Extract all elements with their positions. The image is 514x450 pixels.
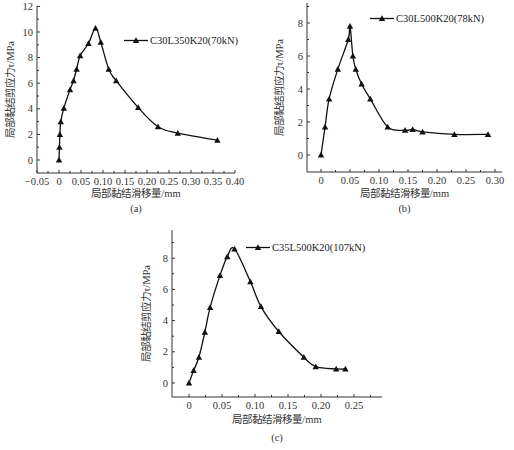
x-tick-label: 0.20 [312, 400, 330, 411]
data-point-marker [202, 329, 208, 335]
data-point-marker [335, 66, 341, 72]
x-tick-label: 0.30 [486, 175, 504, 186]
y-tick-label: 0 [28, 155, 33, 166]
y-tick-label: 8 [28, 52, 33, 63]
x-tick-label: 0.25 [345, 400, 363, 411]
x-tick-label: 0.25 [457, 175, 475, 186]
figure-caption: (b) [398, 203, 411, 215]
x-tick-label: 0.30 [182, 176, 200, 187]
x-tick-label: 0.20 [428, 175, 446, 186]
x-tick-label: 0.10 [94, 176, 112, 187]
chart-b: 0246800.050.100.150.200.250.30局部黏结滑移量/mm… [273, 3, 504, 215]
data-point-marker [57, 131, 63, 137]
data-point-marker [92, 25, 98, 31]
legend: C30L350K20(70kN) [124, 35, 239, 47]
y-tick-label: 10 [23, 27, 34, 38]
y-tick-label: 0 [298, 150, 303, 161]
legend-label: C30L500K20(78kN) [396, 13, 485, 25]
data-point-marker [258, 303, 264, 309]
x-tick-label: 0.15 [399, 175, 417, 186]
y-tick-label: 12 [23, 1, 34, 12]
x-tick-label: 0.40 [226, 176, 244, 187]
data-point-marker [217, 272, 223, 278]
y-tick-label: 2 [298, 117, 303, 128]
x-axis-label: 局部黏结滑移量/mm [232, 413, 321, 425]
data-point-marker [56, 157, 62, 163]
y-tick-label: 2 [28, 129, 33, 140]
y-tick-label: 4 [298, 84, 304, 95]
x-tick-label: 0.10 [370, 175, 388, 186]
data-point-marker [61, 105, 67, 111]
series-line [189, 248, 345, 383]
y-axis-label: 局部黏结剪应力τ/MPa [140, 265, 152, 362]
data-point-marker [73, 66, 79, 72]
x-tick-label: 0 [318, 175, 323, 186]
y-axis-label: 局部黏结剪应力τ/MPa [273, 39, 285, 136]
data-point-marker [345, 36, 351, 42]
y-tick-label: 6 [298, 51, 303, 62]
data-point-marker [322, 124, 328, 130]
data-point-marker [196, 354, 202, 360]
chart-c: 0246800.050.100.150.200.25局部黏结滑移量/mm(c)局… [140, 230, 382, 444]
y-tick-label: 6 [163, 284, 168, 295]
x-tick-label: 0.25 [160, 176, 178, 187]
x-tick-label: 0.35 [204, 176, 222, 187]
data-point-marker [347, 23, 353, 29]
data-point-marker [350, 53, 356, 59]
y-axis-label: 局部黏结剪应力τ/MPa [4, 41, 16, 138]
data-point-marker [207, 304, 213, 310]
data-point-marker [247, 278, 253, 284]
x-axis-label: 局部黏结滑移量/mm [91, 187, 180, 199]
x-tick-label: 0 [186, 400, 191, 411]
data-point-marker [56, 144, 62, 150]
data-point-marker [106, 66, 112, 72]
y-tick-label: 8 [163, 253, 168, 264]
figure-caption: (c) [271, 432, 283, 444]
data-point-marker [353, 66, 359, 72]
data-point-marker [85, 40, 91, 46]
data-point-marker [326, 96, 332, 102]
x-tick-label: −0.05 [25, 176, 49, 187]
y-tick-label: 4 [28, 103, 34, 114]
data-point-marker [318, 152, 324, 158]
x-tick-label: 0.05 [341, 175, 359, 186]
series-line [59, 28, 217, 160]
data-point-marker [70, 77, 76, 83]
x-tick-label: 0.05 [213, 400, 231, 411]
figure-canvas: 024681012−0.0500.050.100.150.200.250.300… [0, 0, 514, 450]
x-tick-label: 0.20 [138, 176, 156, 187]
data-point-marker [224, 253, 230, 259]
x-tick-label: 0.15 [279, 400, 297, 411]
data-point-marker [58, 118, 64, 124]
y-tick-label: 4 [163, 315, 169, 326]
data-point-marker [190, 367, 196, 373]
x-tick-label: 0 [56, 176, 61, 187]
data-point-marker [98, 39, 104, 45]
figure-caption: (a) [130, 203, 142, 215]
legend: C35L500K20(107kN) [246, 242, 366, 254]
x-tick-label: 0.10 [246, 400, 264, 411]
x-axis-label: 局部黏结滑移量/mm [360, 187, 449, 199]
series-line [321, 26, 488, 155]
x-tick-label: 0.15 [116, 176, 134, 187]
x-tick-label: 0.05 [72, 176, 90, 187]
y-tick-label: 0 [163, 378, 168, 389]
data-point-marker [186, 380, 192, 386]
legend: C30L500K20(78kN) [370, 13, 485, 25]
data-point-marker [231, 246, 237, 252]
y-tick-label: 8 [298, 18, 303, 29]
legend-label: C30L350K20(70kN) [150, 35, 239, 47]
y-tick-label: 2 [163, 346, 168, 357]
data-point-marker [358, 81, 364, 87]
chart-a: 024681012−0.0500.050.100.150.200.250.300… [4, 1, 244, 215]
data-point-marker [67, 86, 73, 92]
data-point-marker [367, 96, 373, 102]
data-point-marker [77, 52, 83, 58]
y-tick-label: 6 [28, 78, 33, 89]
legend-label: C35L500K20(107kN) [272, 242, 366, 254]
